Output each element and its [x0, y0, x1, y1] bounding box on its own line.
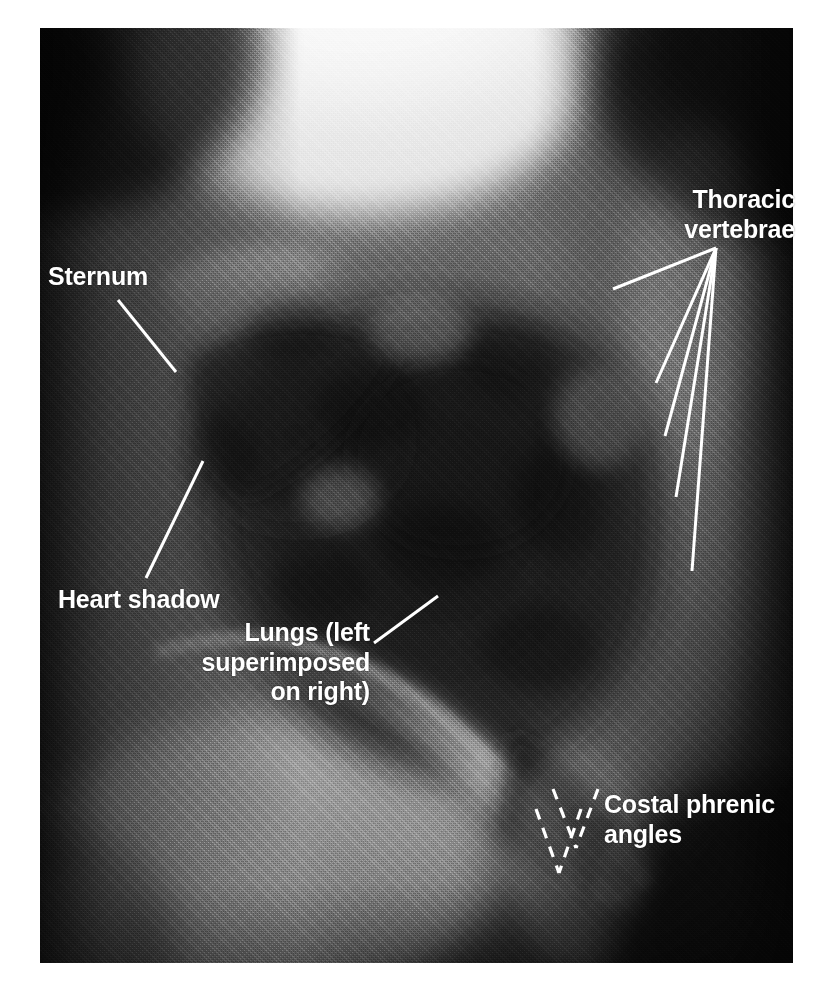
xray-image [40, 28, 793, 963]
radiograph-photo [40, 28, 793, 963]
figure-root: SternumHeart shadowLungs (leftsuperimpos… [0, 0, 829, 983]
